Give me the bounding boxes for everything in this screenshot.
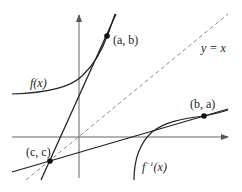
diagram-canvas: (a, b) y = x f(x) (b, a) (c, c) f−1(x) <box>0 0 242 192</box>
point-ab-dot <box>104 33 110 39</box>
point-cc-dot <box>47 158 53 164</box>
label-point-ba: (b, a) <box>190 97 215 111</box>
finv-curve <box>134 110 228 180</box>
label-identity: y = x <box>200 41 226 55</box>
label-f: f(x) <box>30 76 47 90</box>
label-finv-sup: −1 <box>145 160 153 168</box>
tangent-line-shallow <box>12 109 228 172</box>
label-point-ab: (a, b) <box>113 33 138 47</box>
label-finv: f−1(x) <box>142 160 167 174</box>
f-curve <box>12 14 115 94</box>
point-ba-dot <box>201 113 207 119</box>
label-finv-arg: (x) <box>154 160 167 174</box>
label-point-cc: (c, c) <box>26 145 51 159</box>
